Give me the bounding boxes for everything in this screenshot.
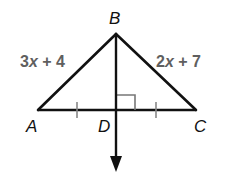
arrow-down-icon [110,156,122,172]
side-label-bc: 2x + 7 [156,53,201,70]
vertex-label-d: D [98,117,110,136]
vertex-label-a: A [25,117,37,136]
vertex-label-b: B [109,9,120,28]
vertex-label-c: C [194,117,207,136]
side-ab [38,34,116,110]
side-label-ab: 3x + 4 [20,53,65,70]
right-angle-marker [116,95,135,110]
side-bc [116,34,196,110]
geometry-diagram: B A D C 3x + 4 2x + 7 [0,0,226,181]
